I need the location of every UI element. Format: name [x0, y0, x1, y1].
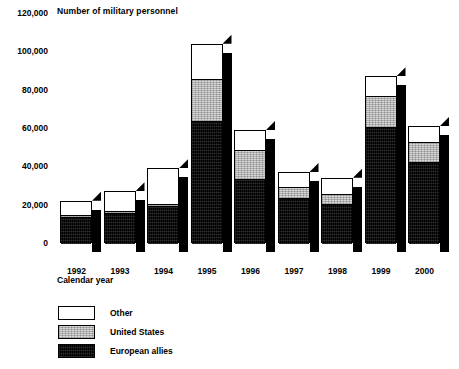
- legend-item[interactable]: European allies: [58, 343, 278, 361]
- y-axis-tick-label: 20,000: [4, 201, 48, 210]
- x-axis-tick-label: 2000: [404, 266, 445, 276]
- bar-side-face: [92, 210, 101, 252]
- bar-segment-other[interactable]: [279, 173, 309, 186]
- bar-top-face: [310, 163, 319, 172]
- bar-group[interactable]: [321, 169, 353, 243]
- bar-front-face[interactable]: [147, 168, 179, 243]
- bar-top-face: [440, 117, 449, 126]
- bar-segment-united-states[interactable]: [322, 194, 352, 204]
- bar-side-face: [310, 181, 319, 252]
- y-axis: 120,000100,00080,00060,00040,00020,0000: [0, 0, 48, 260]
- x-axis: 199219931994199519961997199819992000: [50, 252, 450, 268]
- bar-group[interactable]: [191, 35, 223, 243]
- bar-segment-other[interactable]: [148, 169, 178, 204]
- bar-front-face[interactable]: [365, 76, 397, 243]
- bar-segment-united-states[interactable]: [235, 150, 265, 179]
- x-axis-tick-label: 1994: [143, 266, 184, 276]
- x-axis-tick-label: 1998: [317, 266, 358, 276]
- bar-group[interactable]: [60, 192, 92, 243]
- bar-segment-united-states[interactable]: [366, 96, 396, 127]
- bar-side-face: [223, 53, 232, 252]
- bar-top-face: [136, 182, 145, 191]
- legend-item-label: United States: [110, 327, 164, 337]
- bar-segment-other[interactable]: [366, 77, 396, 96]
- x-axis-tick-label: 1996: [230, 266, 271, 276]
- legend-item-label: European allies: [110, 346, 173, 356]
- legend-swatch-gray-swatch: [58, 325, 95, 339]
- bar-front-face[interactable]: [191, 44, 223, 243]
- y-axis-tick-label: 120,000: [4, 9, 48, 18]
- bar-group[interactable]: [147, 159, 179, 243]
- legend-item-label: Other: [110, 308, 133, 318]
- bar-group[interactable]: [278, 163, 310, 243]
- bar-side-face: [266, 139, 275, 252]
- bar-group[interactable]: [104, 182, 136, 243]
- y-axis-tick-label: 80,000: [4, 86, 48, 95]
- bar-side-face: [397, 85, 406, 252]
- y-axis-tick-label: 0: [4, 239, 48, 248]
- y-axis-tick-label: 100,000: [4, 47, 48, 56]
- bar-segment-european-allies[interactable]: [61, 217, 91, 244]
- bar-segment-united-states[interactable]: [409, 142, 439, 161]
- bar-side-face: [440, 135, 449, 252]
- bar-side-face: [353, 187, 362, 252]
- bar-top-face: [397, 67, 406, 76]
- bar-front-face[interactable]: [278, 172, 310, 243]
- bar-front-face[interactable]: [408, 126, 440, 243]
- x-axis-tick-label: 1995: [187, 266, 228, 276]
- bar-segment-other[interactable]: [192, 45, 222, 80]
- legend-item[interactable]: Other: [58, 305, 278, 323]
- bar-segment-european-allies[interactable]: [322, 204, 352, 244]
- y-axis-tick-label: 40,000: [4, 162, 48, 171]
- bar-segment-european-allies[interactable]: [148, 206, 178, 244]
- bar-front-face[interactable]: [234, 130, 266, 243]
- bar-segment-european-allies[interactable]: [105, 213, 135, 244]
- bar-front-face[interactable]: [104, 191, 136, 243]
- bar-segment-other[interactable]: [105, 192, 135, 211]
- bar-segment-other[interactable]: [235, 131, 265, 150]
- bar-segment-european-allies[interactable]: [409, 162, 439, 244]
- bar-group[interactable]: [408, 117, 440, 243]
- chart-legend: OtherUnited StatesEuropean allies: [58, 305, 278, 362]
- stacked-bar-chart: Number of military personnel 120,000100,…: [0, 0, 459, 369]
- bar-segment-european-allies[interactable]: [366, 127, 396, 244]
- bar-side-face: [179, 177, 188, 252]
- bar-segment-united-states[interactable]: [192, 79, 222, 121]
- x-axis-tick-label: 1999: [361, 266, 402, 276]
- legend-swatch-white-swatch: [58, 306, 95, 320]
- bar-group[interactable]: [234, 121, 266, 243]
- bar-segment-european-allies[interactable]: [279, 198, 309, 244]
- bar-side-face: [136, 200, 145, 252]
- bar-front-face[interactable]: [321, 178, 353, 243]
- legend-swatch-black-swatch: [58, 344, 95, 358]
- legend-item[interactable]: United States: [58, 324, 278, 342]
- plot-area: [50, 0, 450, 252]
- bar-segment-united-states[interactable]: [279, 187, 309, 199]
- bar-top-face: [266, 121, 275, 130]
- bar-front-face[interactable]: [60, 201, 92, 243]
- bar-segment-other[interactable]: [322, 179, 352, 194]
- x-axis-title: Calendar year: [57, 275, 113, 285]
- bar-group[interactable]: [365, 67, 397, 243]
- bar-segment-european-allies[interactable]: [192, 121, 222, 244]
- bar-segment-european-allies[interactable]: [235, 179, 265, 244]
- bar-top-face: [353, 169, 362, 178]
- x-axis-tick-label: 1997: [274, 266, 315, 276]
- bar-segment-other[interactable]: [409, 127, 439, 142]
- bar-top-face: [223, 35, 232, 44]
- bar-top-face: [92, 192, 101, 201]
- y-axis-tick-label: 60,000: [4, 124, 48, 133]
- bar-top-face: [179, 159, 188, 168]
- bar-segment-other[interactable]: [61, 202, 91, 215]
